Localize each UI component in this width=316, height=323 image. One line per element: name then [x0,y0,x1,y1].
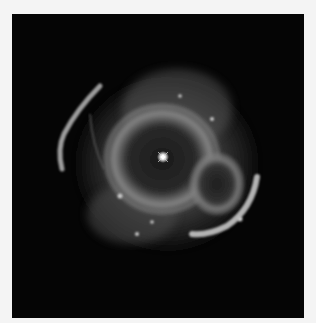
central-star [157,151,169,163]
nebula-image [12,14,304,318]
right-lobe [191,154,243,214]
nebula-illustration [12,14,304,318]
